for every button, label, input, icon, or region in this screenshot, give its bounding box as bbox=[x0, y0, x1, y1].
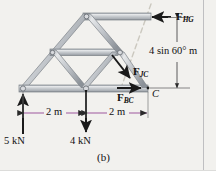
dimension-label-height: 4 sin 60° m bbox=[149, 46, 197, 57]
truss-structure bbox=[19, 13, 151, 92]
figure-caption: (b) bbox=[97, 152, 110, 163]
force-label-jc: FJC bbox=[133, 66, 148, 77]
load-label-5kn: 5 kN bbox=[4, 136, 25, 147]
free-body-diagram-figure: FHG FJC FBC C 4 sin 60° m 2 m 2 m 5 kN 4… bbox=[0, 0, 216, 171]
member-middle-chord bbox=[50, 49, 118, 56]
member-diagonal-mid-v-left bbox=[82, 52, 119, 88]
dimension-label-span-right: 2 m bbox=[109, 107, 125, 118]
point-label-c: C bbox=[152, 89, 159, 100]
point-c-marker bbox=[147, 87, 150, 90]
dimension-label-span-left: 2 m bbox=[46, 107, 62, 118]
load-label-4kn: 4 kN bbox=[70, 136, 91, 147]
force-label-bc: FBC bbox=[117, 92, 133, 103]
truss-diagram-svg bbox=[0, 0, 216, 171]
force-label-hg: FHG bbox=[176, 11, 194, 22]
